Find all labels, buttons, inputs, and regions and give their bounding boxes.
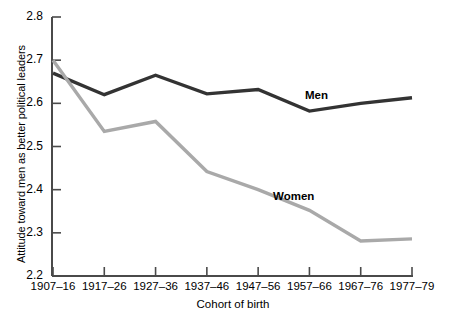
y-tick-label: 2.4 [11, 182, 43, 196]
tick-marks [52, 17, 412, 276]
series-line-women [53, 60, 412, 241]
y-tick-label: 2.3 [11, 225, 43, 239]
axes [52, 17, 413, 276]
series-label-men: Men [305, 89, 328, 101]
data-series [53, 60, 412, 241]
y-tick-label: 2.8 [11, 9, 43, 23]
x-tick-label: 1977–79 [376, 280, 448, 292]
y-tick-label: 2.6 [11, 95, 43, 109]
plot-area [0, 0, 462, 319]
series-label-women: Women [273, 190, 314, 202]
series-line-men [53, 73, 412, 111]
y-tick-label: 2.5 [11, 139, 43, 153]
chart-figure: Attitude toward men as better political … [0, 0, 462, 319]
y-tick-label: 2.7 [11, 52, 43, 66]
